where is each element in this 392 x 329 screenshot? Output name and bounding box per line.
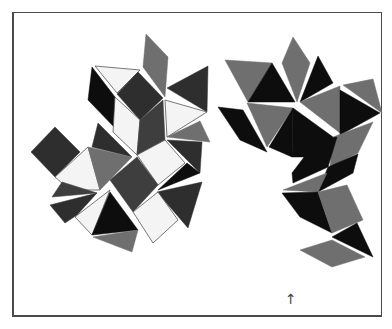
tile-figure [0,0,392,329]
up-arrow-icon: ↑ [285,292,297,306]
right-tile-cluster [218,37,382,267]
left-tile-cluster [31,34,210,252]
